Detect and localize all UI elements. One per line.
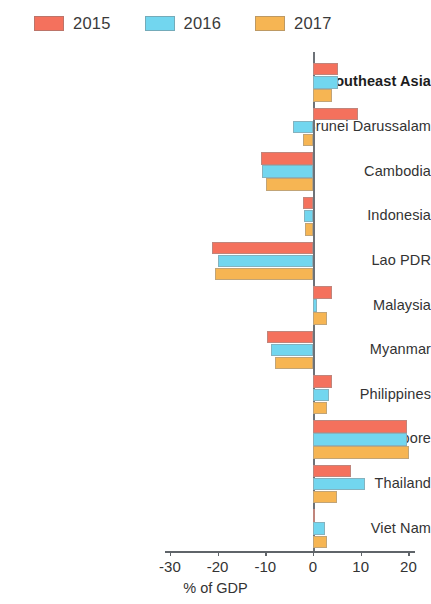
legend-label-2015: 2015 <box>73 14 111 33</box>
bar-2016-southeast-asia <box>313 76 338 89</box>
bar-2015-myanmar <box>267 331 313 344</box>
bar-2015-southeast-asia <box>313 63 338 76</box>
legend-item-2016: 2016 <box>145 14 222 33</box>
bar-2017-myanmar <box>275 357 313 370</box>
bar-2015-thailand <box>313 465 351 478</box>
bar-2016-myanmar <box>271 344 313 357</box>
bar-2015-viet-nam <box>313 509 315 522</box>
x-tick <box>361 551 362 556</box>
bar-2017-cambodia <box>266 178 313 191</box>
x-axis-title: % of GDP <box>0 580 431 596</box>
bar-2017-philippines <box>313 402 327 415</box>
x-tick-label: 20 <box>385 558 431 575</box>
x-tick-label: 10 <box>338 558 384 575</box>
x-tick <box>170 551 171 556</box>
bar-2016-viet-nam <box>313 522 325 535</box>
bar-2015-indonesia <box>303 197 313 210</box>
bar-2015-malaysia <box>313 286 332 299</box>
bar-2015-cambodia <box>261 152 313 165</box>
x-tick <box>408 551 409 556</box>
x-axis-line <box>165 551 415 553</box>
x-tick-label: -30 <box>147 558 193 575</box>
x-tick <box>313 551 314 556</box>
x-tick-label: -10 <box>242 558 288 575</box>
legend-swatch-2015 <box>34 16 64 31</box>
chart-container: 2015 2016 2017 Southeast AsiaBrunei Daru… <box>0 0 431 604</box>
x-tick <box>265 551 266 556</box>
bar-2016-malaysia <box>313 299 317 312</box>
bar-2016-philippines <box>313 389 329 402</box>
bar-2017-indonesia <box>305 223 313 236</box>
bar-2017-lao-pdr <box>215 268 313 281</box>
legend-swatch-2017 <box>255 16 285 31</box>
bar-2016-lao-pdr <box>218 255 313 268</box>
bar-2016-brunei-darussalam <box>293 121 313 134</box>
bar-2017-viet-nam <box>313 536 327 549</box>
bar-2016-thailand <box>313 478 365 491</box>
legend-swatch-2016 <box>145 16 175 31</box>
x-tick <box>218 551 219 556</box>
bar-2015-brunei-darussalam <box>313 108 358 121</box>
x-tick-label: 0 <box>290 558 336 575</box>
bar-2015-singapore <box>313 420 407 433</box>
legend-label-2017: 2017 <box>294 14 332 33</box>
bar-2017-southeast-asia <box>313 89 332 102</box>
bars-area <box>160 52 420 552</box>
legend-item-2017: 2017 <box>255 14 332 33</box>
legend-item-2015: 2015 <box>34 14 111 33</box>
bar-2016-singapore <box>313 433 407 446</box>
chart-legend: 2015 2016 2017 <box>0 0 431 46</box>
bar-2017-singapore <box>313 446 409 459</box>
bar-2017-brunei-darussalam <box>303 134 313 147</box>
legend-label-2016: 2016 <box>184 14 222 33</box>
bar-2016-indonesia <box>304 210 313 223</box>
bar-2015-lao-pdr <box>212 242 313 255</box>
bar-2016-cambodia <box>262 165 313 178</box>
x-tick-label: -20 <box>195 558 241 575</box>
bar-2015-philippines <box>313 375 332 388</box>
bar-2017-thailand <box>313 491 337 504</box>
plot-area: Southeast AsiaBrunei DarussalamCambodiaI… <box>0 52 431 552</box>
bar-2017-malaysia <box>313 312 327 325</box>
